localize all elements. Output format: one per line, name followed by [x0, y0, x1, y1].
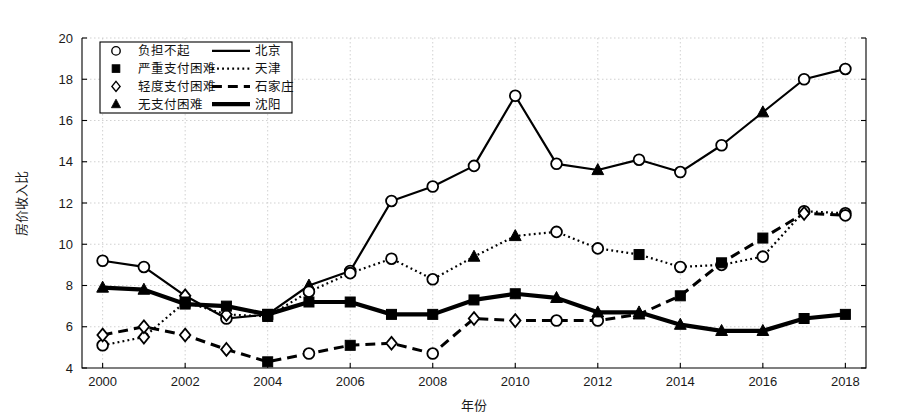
legend-marker-label: 负担不起 — [138, 43, 190, 58]
y-axis-tick-label: 4 — [66, 361, 73, 376]
legend-marker-label: 无支付困难 — [138, 97, 203, 112]
marker-circle-open — [138, 262, 149, 273]
marker-circle-open — [97, 255, 108, 266]
x-axis-tick-label: 2016 — [748, 374, 777, 389]
marker-circle-open — [386, 196, 397, 207]
marker-circle-open — [112, 47, 120, 55]
marker-circle-open — [675, 262, 686, 273]
marker-circle-open — [551, 158, 562, 169]
marker-circle-open — [427, 274, 438, 285]
marker-square-filled — [758, 233, 768, 243]
y-axis-title: 房价收入比 — [14, 171, 29, 236]
marker-square-filled — [428, 309, 438, 319]
x-axis-tick-label: 2014 — [666, 374, 695, 389]
marker-circle-open — [304, 286, 315, 297]
x-axis-tick-label: 2010 — [501, 374, 530, 389]
marker-circle-open — [304, 348, 315, 359]
marker-circle-open — [675, 167, 686, 178]
legend-series-label: 北京 — [255, 43, 281, 58]
legend-series-label: 石家庄 — [255, 79, 294, 94]
marker-circle-open — [634, 154, 645, 165]
y-axis-tick-label: 12 — [59, 196, 73, 211]
marker-circle-open — [386, 253, 397, 264]
marker-square-filled — [345, 340, 355, 350]
x-axis-tick-label: 2002 — [171, 374, 200, 389]
marker-square-filled — [510, 289, 520, 299]
marker-circle-open — [716, 140, 727, 151]
marker-circle-open — [510, 90, 521, 101]
chart-legend: 负担不起严重支付困难轻度支付困难无支付困难北京天津石家庄沈阳 — [100, 42, 294, 113]
marker-circle-open — [592, 243, 603, 254]
marker-circle-open — [345, 268, 356, 279]
marker-square-filled — [345, 297, 355, 307]
x-axis-tick-label: 2018 — [831, 374, 860, 389]
y-axis-tick-label: 20 — [59, 31, 73, 46]
legend-series-label: 沈阳 — [255, 97, 281, 112]
house-price-to-income-ratio-line-chart: 4681012141618202000200220042006200820102… — [0, 0, 906, 415]
marker-circle-open — [757, 251, 768, 262]
legend-marker-label: 严重支付困难 — [138, 61, 216, 76]
marker-square-filled — [840, 309, 850, 319]
marker-square-filled — [799, 314, 809, 324]
x-axis-tick-label: 2012 — [583, 374, 612, 389]
marker-circle-open — [799, 74, 810, 85]
marker-circle-open — [469, 160, 480, 171]
x-axis-tick-label: 2006 — [336, 374, 365, 389]
y-axis-tick-label: 16 — [59, 113, 73, 128]
marker-square-filled — [263, 357, 273, 367]
marker-square-filled — [717, 258, 727, 268]
marker-square-filled — [634, 250, 644, 260]
y-axis-tick-label: 6 — [66, 319, 73, 334]
marker-circle-open — [840, 210, 851, 221]
marker-square-filled — [675, 291, 685, 301]
marker-square-filled — [386, 309, 396, 319]
x-axis-tick-label: 2008 — [418, 374, 447, 389]
y-axis-tick-label: 18 — [59, 72, 73, 87]
marker-circle-open — [551, 226, 562, 237]
chart-figure: 4681012141618202000200220042006200820102… — [0, 0, 906, 415]
marker-circle-open — [427, 181, 438, 192]
marker-square-filled — [304, 297, 314, 307]
y-axis-tick-label: 8 — [66, 278, 73, 293]
x-axis-tick-label: 2000 — [88, 374, 117, 389]
legend-series-label: 天津 — [255, 61, 281, 76]
x-axis-tick-label: 2004 — [253, 374, 282, 389]
y-axis-tick-label: 14 — [59, 154, 73, 169]
x-axis-title: 年份 — [461, 398, 487, 413]
marker-circle-open — [551, 315, 562, 326]
marker-square-filled — [180, 299, 190, 309]
marker-circle-open — [427, 348, 438, 359]
marker-square-filled — [263, 309, 273, 319]
y-axis-tick-label: 10 — [59, 237, 73, 252]
marker-circle-open — [840, 64, 851, 75]
marker-square-filled — [469, 295, 479, 305]
marker-square-filled — [221, 301, 231, 311]
marker-square-filled — [112, 65, 120, 73]
legend-marker-label: 轻度支付困难 — [138, 79, 216, 94]
